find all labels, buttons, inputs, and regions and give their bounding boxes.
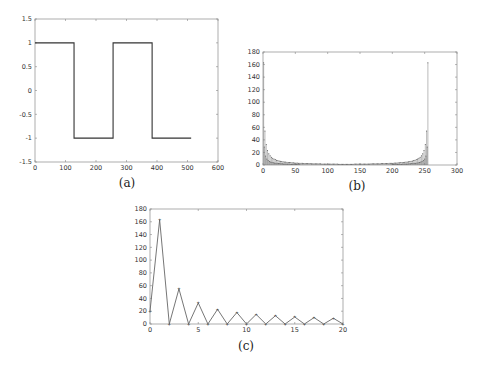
x-tick-label: 250: [418, 167, 430, 175]
y-tick-label: 0: [28, 87, 32, 95]
svg-text:+: +: [235, 310, 238, 315]
x-tick-label: 200: [386, 167, 398, 175]
x-tick-label: 150: [354, 167, 366, 175]
svg-text:+: +: [341, 322, 344, 327]
x-tick-label: 100: [321, 167, 333, 175]
y-tick-label: 160: [248, 61, 260, 69]
svg-text:+: +: [322, 322, 325, 327]
x-tick-label: 200: [90, 164, 102, 172]
y-tick-label: 0.5: [22, 63, 32, 71]
y-tick-label: -0.5: [19, 111, 32, 119]
x-tick-label: 50: [291, 167, 299, 175]
svg-text:+: +: [245, 322, 248, 327]
x-tick-label: 5: [196, 326, 200, 334]
plot-frame: [35, 19, 218, 162]
x-tick-label: 20: [339, 326, 347, 334]
y-tick-label: 40: [139, 295, 147, 303]
y-tick-label: 160: [135, 218, 147, 226]
y-tick-label: 1: [28, 39, 32, 47]
svg-text:+: +: [177, 286, 180, 291]
y-tick-label: 40: [252, 136, 260, 144]
spectrum-line: [150, 220, 343, 324]
svg-text:+: +: [206, 322, 209, 327]
svg-text:+: +: [303, 322, 306, 327]
y-tick-label: -1.5: [19, 158, 32, 166]
y-tick-label: 140: [135, 231, 147, 239]
y-tick-label: 180: [135, 205, 147, 213]
y-tick-label: 80: [139, 269, 147, 277]
x-tick-label: 100: [59, 164, 71, 172]
chart-caption: (b): [348, 179, 365, 193]
y-tick-label: 140: [248, 73, 260, 81]
svg-text:+: +: [158, 217, 161, 222]
y-tick-label: 20: [252, 149, 260, 157]
plot-frame: [150, 209, 343, 324]
y-tick-label: 60: [252, 124, 260, 132]
x-tick-label: 10: [242, 326, 250, 334]
y-tick-label: 60: [139, 282, 147, 290]
x-tick-label: 400: [151, 164, 163, 172]
svg-text:+: +: [274, 313, 277, 318]
x-tick-label: 0: [148, 326, 152, 334]
y-tick-label: 120: [135, 244, 147, 252]
y-tick-label: 0: [143, 320, 147, 328]
y-tick-label: 100: [135, 256, 147, 264]
x-tick-label: 500: [181, 164, 193, 172]
y-tick-label: 120: [248, 86, 260, 94]
svg-text:+: +: [254, 312, 257, 317]
chart-b-dft-spectrum: 0501001502002503000204060801001201401601…: [248, 48, 464, 193]
x-tick-label: 300: [451, 167, 463, 175]
svg-text:+: +: [293, 314, 296, 319]
svg-text:+: +: [197, 300, 200, 305]
svg-text:+: +: [264, 322, 267, 327]
x-tick-label: 300: [120, 164, 132, 172]
chart-caption: (a): [119, 176, 136, 190]
chart-caption: (c): [238, 339, 254, 353]
y-tick-label: 100: [248, 98, 260, 106]
svg-text:+: +: [283, 322, 286, 327]
x-tick-label: 0: [33, 164, 37, 172]
spectrum-stems: [263, 62, 428, 165]
square-wave-line: [35, 43, 191, 138]
chart-a-square-wave: 0100200300400500600-1.5-1-0.500.511.5(a): [19, 15, 224, 190]
x-tick-label: 0: [261, 167, 265, 175]
x-tick-label: 600: [212, 164, 224, 172]
svg-text:+: +: [168, 322, 171, 327]
y-tick-label: 0: [256, 161, 260, 169]
svg-text:+: +: [332, 316, 335, 321]
svg-text:+: +: [226, 322, 229, 327]
y-tick-label: 80: [252, 111, 260, 119]
svg-text:+: +: [216, 307, 219, 312]
svg-text:+: +: [312, 315, 315, 320]
y-tick-label: 20: [139, 307, 147, 315]
x-tick-label: 15: [291, 326, 299, 334]
y-tick-label: 180: [248, 48, 260, 56]
y-tick-label: 1.5: [22, 15, 32, 23]
svg-text:+: +: [148, 309, 151, 314]
y-tick-label: -1: [26, 134, 32, 142]
svg-text:+: +: [187, 322, 190, 327]
figure-canvas: 0100200300400500600-1.5-1-0.500.511.5(a)…: [0, 0, 477, 367]
chart-c-spectrum-zoom: 05101520020406080100120140160180(c)+++++…: [135, 205, 348, 353]
